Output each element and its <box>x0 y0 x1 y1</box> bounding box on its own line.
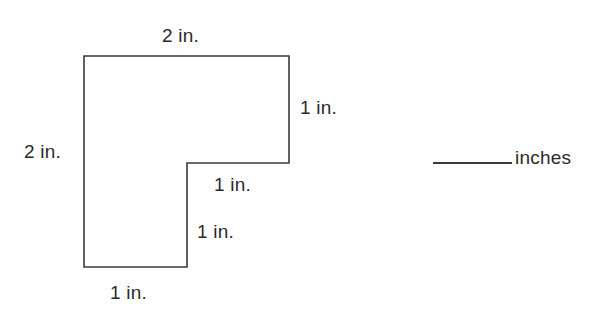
answer-row: inches <box>433 140 571 169</box>
l-shape-polygon <box>84 56 289 267</box>
answer-units-label: inches <box>515 147 571 169</box>
dimension-label-notch-horizontal: 1 in. <box>214 174 251 196</box>
dimension-label-top: 2 in. <box>162 25 199 47</box>
answer-blank-input[interactable] <box>433 140 512 164</box>
dimension-label-bottom: 1 in. <box>110 282 147 304</box>
dimension-label-right: 1 in. <box>300 97 337 119</box>
worksheet-canvas: 2 in. 2 in. 1 in. 1 in. 1 in. 1 in. inch… <box>0 0 602 314</box>
dimension-label-left: 2 in. <box>24 141 61 163</box>
dimension-label-notch-vertical: 1 in. <box>197 221 234 243</box>
